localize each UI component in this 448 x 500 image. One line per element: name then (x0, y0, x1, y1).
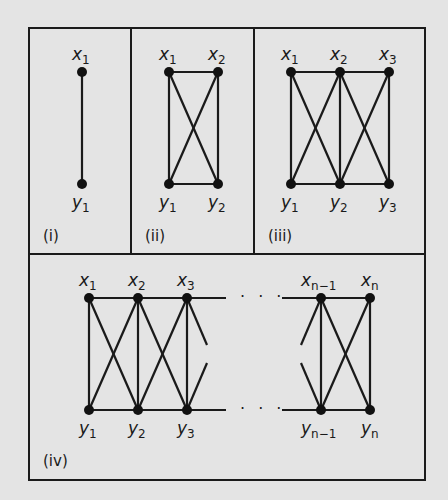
label-y1: y1 (280, 192, 299, 215)
vertex-y3 (182, 405, 192, 415)
label-xn-1: xn−1 (300, 270, 336, 293)
vertex-yn-1 (316, 405, 326, 415)
label-xn: xn (360, 270, 379, 293)
panel-iii: x1 x2 x3 y1 y2 y3 (iii) (268, 44, 397, 245)
vertex-x2 (133, 293, 143, 303)
vertex-x3 (384, 67, 394, 77)
label-x2: x2 (127, 270, 146, 293)
label-x1: x1 (158, 44, 177, 67)
vertex-x1 (84, 293, 94, 303)
label-x3: x3 (176, 270, 195, 293)
vertex-xn-1 (316, 293, 326, 303)
label-y2: y2 (329, 192, 348, 215)
label-y1: y1 (71, 192, 90, 215)
vertex-x2 (335, 67, 345, 77)
vertex-x1 (164, 67, 174, 77)
label-y3: y3 (378, 192, 397, 215)
panel-i: x1 y1 (i) (43, 44, 90, 245)
panel-ii: x1 x2 y1 y2 (ii) (145, 44, 226, 245)
vertex-y1 (84, 405, 94, 415)
vertex-y2 (213, 179, 223, 189)
vertex-x1 (286, 67, 296, 77)
label-y2: y2 (207, 192, 226, 215)
label-x1: x1 (71, 44, 90, 67)
vertex-y3 (384, 179, 394, 189)
vertex-y1 (164, 179, 174, 189)
panel-label-ii: (ii) (145, 227, 165, 245)
vertex-y1 (77, 179, 87, 189)
label-x1: x1 (78, 270, 97, 293)
vertex-x2 (213, 67, 223, 77)
label-y2: y2 (127, 418, 146, 441)
label-x2: x2 (329, 44, 348, 67)
panel-iv: · · · · · · x1 x2 x3 xn−1 xn y1 y2 y3 yn… (43, 270, 379, 470)
label-yn: yn (360, 418, 379, 441)
ellipsis-bottom: · · · (240, 399, 285, 418)
label-y1: y1 (78, 418, 97, 441)
vertex-xn (365, 293, 375, 303)
complete-bipartite-minus-matching-diagram: x1 y1 (i) x1 x2 y1 y2 (ii) (0, 0, 448, 500)
label-x1: x1 (280, 44, 299, 67)
label-x3: x3 (378, 44, 397, 67)
label-y3: y3 (176, 418, 195, 441)
vertex-x1 (77, 67, 87, 77)
label-x2: x2 (207, 44, 226, 67)
label-y1: y1 (158, 192, 177, 215)
vertex-y1 (286, 179, 296, 189)
panel-label-i: (i) (43, 227, 59, 245)
vertex-y2 (133, 405, 143, 415)
ellipsis-top: · · · (240, 287, 285, 306)
vertex-y2 (335, 179, 345, 189)
panel-label-iv: (iv) (43, 452, 68, 470)
vertex-x3 (182, 293, 192, 303)
panel-label-iii: (iii) (268, 227, 292, 245)
vertex-yn (365, 405, 375, 415)
label-yn-1: yn−1 (300, 418, 336, 441)
